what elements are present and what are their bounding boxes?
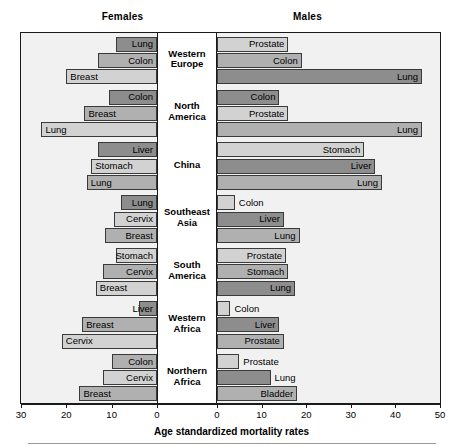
bar-label: Stomach [323,145,361,155]
bar-female-colon: Colon [109,90,157,105]
bar-label: Lung [91,178,112,188]
bar-female-breast: Breast [105,228,157,243]
bar-female-colon: Colon [112,354,157,369]
bar-label: Liver [132,304,153,314]
bar-label: Cervix [126,267,153,277]
bar-label: Lung [274,231,295,241]
bar-label: Colon [128,357,153,367]
bar-male-colon: Colon [217,53,302,68]
bar-male-colon: Colon [217,301,230,316]
bar-label: Liver [255,320,276,330]
bar-male-liver: Liver [217,317,279,332]
region-label: Western Europe [158,33,216,86]
bar-female-stomach: Stomach [91,159,157,174]
bar-label: Cervix [126,373,153,383]
bar-label: Breast [100,283,127,293]
bar-male-bladder: Bladder [217,386,297,401]
axis-tick-label-male-40: 40 [390,409,401,420]
bar-label: Colon [234,304,259,314]
bar-female-cervix: Cervix [62,334,157,349]
bar-female-lung: Lung [116,37,157,52]
bar-label: Lung [357,178,378,188]
axis-tick-label-male-30: 30 [346,409,357,420]
bar-label: Prostate [243,357,278,367]
axis-title: Age standardized mortality rates [0,426,463,437]
bar-male-stomach: Stomach [217,264,288,279]
bar-label: Breast [83,389,110,399]
bar-label: Prostate [249,39,284,49]
bar-male-lung: Lung [217,228,300,243]
axis-tick-label-female-30: 30 [16,409,27,420]
bar-label: Stomach [95,161,133,171]
bar-label: Lung [397,125,418,135]
region-label: Southeast Asia [158,192,216,245]
bar-male-liver: Liver [217,159,375,174]
bar-male-liver: Liver [217,212,284,227]
bar-label: Breast [86,320,113,330]
bar-female-lung: Lung [41,122,157,137]
bar-label: Stomach [115,251,153,261]
bar-label: Lung [397,72,418,82]
bar-label: Breast [88,109,115,119]
bar-male-prostate: Prostate [217,37,288,52]
axis-tick [440,404,441,408]
bar-label: Liver [351,161,372,171]
bar-female-liver: Liver [98,142,157,157]
bar-male-lung: Lung [217,281,295,296]
axis-tick-label-male-50: 50 [435,409,446,420]
bar-male-lung: Lung [217,175,382,190]
bar-label: Colon [251,92,276,102]
bar-label: Cervix [126,214,153,224]
bar-female-breast: Breast [82,317,157,332]
bar-label: Colon [128,92,153,102]
bar-label: Liver [132,145,153,155]
bar-label: Bladder [261,389,294,399]
bar-label: Lung [132,39,153,49]
bar-label: Colon [128,56,153,66]
axis-tick-label-male-20: 20 [301,409,312,420]
bar-female-breast: Breast [96,281,157,296]
bar-female-colon: Colon [98,53,157,68]
females-heading: Females [65,11,180,22]
bar-male-prostate: Prostate [217,248,286,263]
region-label: Western Africa [158,297,216,350]
bar-male-lung: Lung [217,122,422,137]
bar-female-lung: Lung [121,195,157,210]
bar-male-colon: Colon [217,90,279,105]
bar-label: Colon [239,198,264,208]
bar-male-prostate: Prostate [217,354,239,369]
bar-female-cervix: Cervix [114,212,157,227]
axis-tick-label-female-20: 20 [61,409,72,420]
bar-male-lung: Lung [217,370,271,385]
bar-female-liver: Liver [139,301,157,316]
axis-line [21,404,440,405]
bar-male-lung: Lung [217,69,422,84]
bar-male-prostate: Prostate [217,106,288,121]
bar-label: Liver [259,214,280,224]
axis-tick-label-male-0: 0 [214,409,219,420]
bar-female-breast: Breast [84,106,157,121]
bar-label: Prostate [249,109,284,119]
bar-female-cervix: Cervix [103,370,157,385]
bar-label: Prostate [245,336,280,346]
bar-female-breast: Breast [66,69,157,84]
figure-root: Females Males Western EuropeLungColonBre… [0,0,463,447]
plot-area: Western EuropeLungColonBreastProstateCol… [20,32,441,404]
bar-female-stomach: Stomach [116,248,157,263]
bar-label: Colon [273,56,298,66]
axis-tick-label-female-10: 10 [106,409,117,420]
bar-male-stomach: Stomach [217,142,364,157]
axis-tick-label-male-10: 10 [256,409,267,420]
bar-male-prostate: Prostate [217,334,284,349]
bar-label: Cervix [66,336,93,346]
region-label: South America [158,244,216,297]
bar-male-colon: Colon [217,195,235,210]
bar-label: Breast [126,231,153,241]
bar-label: Breast [70,72,97,82]
bar-female-lung: Lung [87,175,157,190]
bar-label: Prostate [247,251,282,261]
bar-label: Lung [275,373,296,383]
bar-label: Stomach [247,267,285,277]
bar-label: Lung [45,125,66,135]
region-label: North America [158,86,216,139]
